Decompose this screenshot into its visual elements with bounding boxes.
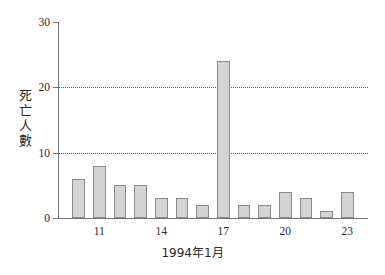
x-axis-title: 1994年1月	[0, 243, 385, 260]
bar	[72, 179, 85, 218]
bar	[341, 192, 354, 218]
bar-chart-figure: 死亡人數 0102030 1114172023 1994年1月	[0, 0, 385, 275]
plot-area: 0102030 1114172023	[58, 22, 368, 219]
bar	[134, 185, 147, 218]
x-tick-label-23: 23	[342, 225, 354, 237]
bar	[320, 211, 333, 218]
y-tick-label-20: 20	[39, 81, 51, 93]
x-tick-label-17: 17	[218, 225, 230, 237]
y-tick-label-0: 0	[44, 212, 50, 224]
x-tick-label-14: 14	[156, 225, 168, 237]
bar	[279, 192, 292, 218]
y-axis-title: 死亡人數	[14, 88, 36, 148]
bar	[196, 205, 209, 218]
bar	[93, 166, 106, 218]
y-tick-label-30: 30	[39, 16, 51, 28]
bar	[258, 205, 271, 218]
bar	[155, 198, 168, 218]
x-tick-label-20: 20	[280, 225, 292, 237]
bar	[300, 198, 313, 218]
bar	[217, 61, 230, 218]
bars-layer	[58, 22, 368, 219]
y-tick-label-10: 10	[39, 147, 51, 159]
bar	[176, 198, 189, 218]
bar	[238, 205, 251, 218]
bar	[114, 185, 127, 218]
x-tick-label-11: 11	[94, 225, 105, 237]
